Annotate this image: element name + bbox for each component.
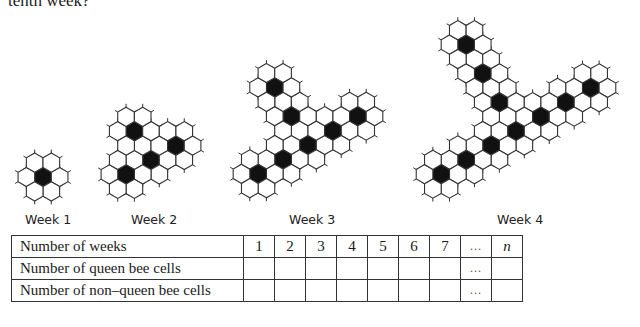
table-cell[interactable]: [244, 258, 275, 280]
table-header-row: Number of weeks 1 2 3 4 5 6 7 ... n: [12, 236, 523, 258]
worker-cell: [258, 92, 275, 111]
worker-cell: [26, 182, 43, 201]
worker-cell: [258, 179, 275, 198]
table-row: Number of non–queen bee cells ...: [12, 280, 523, 302]
table-cell[interactable]: [399, 258, 430, 280]
worker-cell: [109, 150, 126, 169]
worker-cell: [341, 92, 358, 111]
honeycomb-figures: [0, 0, 640, 235]
worker-cell: [541, 121, 558, 140]
table-cell[interactable]: [275, 258, 306, 280]
weeks-table: Number of weeks 1 2 3 4 5 6 7 ... n Numb…: [11, 235, 523, 302]
col-header: 4: [337, 236, 368, 258]
table-cell[interactable]: [306, 258, 337, 280]
table-cell[interactable]: [337, 258, 368, 280]
table-cell[interactable]: [399, 280, 430, 302]
worker-cell: [241, 179, 258, 198]
worker-cell: [275, 63, 292, 82]
table-cell[interactable]: [337, 280, 368, 302]
worker-cell: [176, 150, 193, 169]
worker-cell: [524, 93, 541, 112]
worker-cell: [358, 121, 375, 140]
table-cell[interactable]: [492, 258, 523, 280]
worker-cell: [118, 107, 135, 126]
col-header: 7: [430, 236, 461, 258]
worker-cell: [449, 21, 466, 40]
worker-cell: [516, 136, 533, 155]
table-row: Number of queen bee cells ...: [12, 258, 523, 280]
table-cell[interactable]: [368, 258, 399, 280]
row-label: Number of queen bee cells: [12, 258, 244, 280]
table-cell[interactable]: [306, 280, 337, 302]
worker-cell: [308, 150, 325, 169]
week-3-honeycomb: [230, 60, 385, 201]
worker-cell: [134, 107, 151, 126]
week-4-honeycomb: [413, 17, 618, 201]
col-header: 2: [275, 236, 306, 258]
worker-cell: [425, 150, 442, 169]
worker-cell: [176, 122, 193, 141]
worker-cell: [549, 78, 566, 97]
worker-cell: [591, 64, 608, 83]
worker-cell: [316, 107, 333, 126]
worker-cell: [258, 63, 275, 82]
col-header: 5: [368, 236, 399, 258]
table-cell-ellipsis: ...: [461, 280, 492, 302]
worker-cell: [266, 135, 283, 154]
worker-cell: [283, 164, 300, 183]
week-1-label: Week 1: [25, 212, 71, 227]
worker-cell: [159, 122, 176, 141]
worker-cell: [126, 179, 143, 198]
worker-cell: [466, 78, 483, 97]
week-2-honeycomb: [98, 104, 204, 202]
col-header-ellipsis: ...: [461, 236, 492, 258]
worker-cell: [466, 165, 483, 184]
col-header-n: n: [492, 236, 523, 258]
table-cell[interactable]: [430, 258, 461, 280]
week-2-label: Week 2: [131, 212, 177, 227]
table-cell[interactable]: [430, 280, 461, 302]
worker-cell: [449, 49, 466, 68]
col-header: 1: [244, 236, 275, 258]
worker-cell: [241, 150, 258, 169]
worker-cell: [466, 21, 483, 40]
worker-cell: [449, 136, 466, 155]
col-header: 3: [306, 236, 337, 258]
worker-cell: [491, 150, 508, 169]
header-label: Number of weeks: [12, 236, 244, 258]
worker-cell: [441, 179, 458, 198]
worker-cell: [151, 165, 168, 184]
worker-cell: [43, 182, 60, 201]
worker-cell: [566, 107, 583, 126]
table-cell[interactable]: [275, 280, 306, 302]
row-label: Number of non–queen bee cells: [12, 280, 244, 302]
worker-cell: [425, 179, 442, 198]
col-header: 6: [399, 236, 430, 258]
worker-cell: [474, 121, 491, 140]
table-cell-ellipsis: ...: [461, 258, 492, 280]
worker-cell: [358, 92, 375, 111]
table-cell[interactable]: [244, 280, 275, 302]
week-4-label: Week 4: [497, 212, 543, 227]
worker-cell: [43, 153, 60, 172]
worker-cell: [333, 135, 350, 154]
worker-cell: [591, 93, 608, 112]
worker-cell: [574, 64, 591, 83]
week-1-honeycomb: [15, 150, 71, 205]
week-3-label: Week 3: [289, 212, 335, 227]
table-cell[interactable]: [368, 280, 399, 302]
worker-cell: [109, 179, 126, 198]
worker-cell: [26, 153, 43, 172]
table-cell[interactable]: [492, 280, 523, 302]
